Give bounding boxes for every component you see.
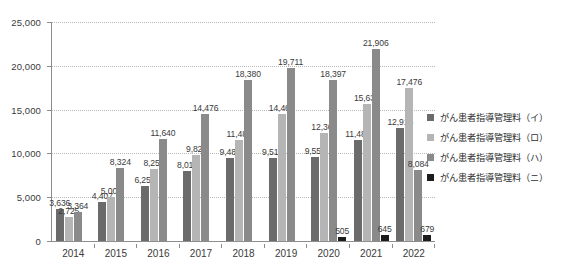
x-axis: 201420152016201720182019202020212022 <box>52 244 435 264</box>
bar-value-label: 505 <box>335 226 349 236</box>
bar[interactable]: 645 <box>381 235 389 241</box>
bar[interactable]: 4,407 <box>98 202 106 241</box>
x-tick-label: 2018 <box>222 244 265 264</box>
bar-value-label: 18,397 <box>320 69 346 79</box>
legend-label: がん患者指導管理料（イ） <box>440 110 548 124</box>
x-tick-label: 2014 <box>52 244 95 264</box>
bar[interactable]: 2,725 <box>65 217 73 241</box>
bar-group: 9,51614,46119,711 <box>265 22 308 241</box>
legend-swatch-icon <box>427 174 434 181</box>
bar-value-label: 21,906 <box>363 38 389 48</box>
x-tick-label: 2015 <box>95 244 138 264</box>
bar[interactable]: 9,480 <box>226 158 234 241</box>
x-tick-mark <box>434 244 435 248</box>
bar-value-label: 17,476 <box>396 77 422 87</box>
bar-value-label: 3,364 <box>67 201 88 211</box>
x-tick-label: 2021 <box>350 244 393 264</box>
y-axis: 05,00010,00015,00020,00025,000 <box>0 0 46 275</box>
legend-item[interactable]: がん患者指導管理料（ハ） <box>427 147 563 167</box>
bar[interactable]: 8,259 <box>150 169 158 241</box>
bar[interactable]: 505 <box>338 237 346 241</box>
x-tick-label: 2019 <box>265 244 308 264</box>
bar[interactable]: 12,916 <box>396 128 404 241</box>
bar-group: 8,0109,82414,476 <box>180 22 223 241</box>
legend-swatch-icon <box>427 134 434 141</box>
y-tick-label: 20,000 <box>11 60 41 71</box>
bar[interactable]: 12,366 <box>320 133 328 241</box>
x-tick-label: 2020 <box>307 244 350 264</box>
bar-group: 9,48011,48218,380 <box>222 22 265 241</box>
bar-value-label: 14,476 <box>193 103 219 113</box>
bar-value-label: 18,380 <box>235 69 261 79</box>
y-tick-label: 0 <box>36 236 41 247</box>
bar[interactable]: 18,397 <box>329 80 337 241</box>
bar[interactable]: 9,559 <box>311 157 319 241</box>
bar-group: 6,2508,25911,640 <box>137 22 180 241</box>
bar-chart: 05,00010,00015,00020,00025,000 3,6362,72… <box>0 0 563 275</box>
y-tick-label: 25,000 <box>11 17 41 28</box>
bar[interactable]: 9,824 <box>192 155 200 241</box>
y-tick-label: 15,000 <box>11 104 41 115</box>
bar[interactable]: 18,380 <box>244 80 252 241</box>
bar[interactable]: 9,516 <box>269 158 277 241</box>
legend-swatch-icon <box>427 114 434 121</box>
bar-value-label: 645 <box>378 224 392 234</box>
bar[interactable]: 11,482 <box>235 140 243 241</box>
legend-swatch-icon <box>427 154 434 161</box>
legend-label: がん患者指導管理料（ニ） <box>440 170 548 184</box>
legend-item[interactable]: がん患者指導管理料（イ） <box>427 107 563 127</box>
bar[interactable]: 11,640 <box>159 139 167 241</box>
x-tick-label: 2017 <box>180 244 223 264</box>
bar-value-label: 679 <box>420 224 434 234</box>
bar-group: 3,6362,7253,364 <box>52 22 95 241</box>
bar-value-label: 19,711 <box>278 57 303 67</box>
legend-item[interactable]: がん患者指導管理料（ニ） <box>427 167 563 187</box>
bar[interactable]: 15,630 <box>363 104 371 241</box>
bar[interactable]: 14,461 <box>278 114 286 241</box>
bar[interactable]: 14,476 <box>201 114 209 241</box>
legend-item[interactable]: がん患者指導管理料（ロ） <box>427 127 563 147</box>
x-axis-line <box>51 241 435 242</box>
y-tick-label: 5,000 <box>17 192 41 203</box>
bar-value-label: 8,084 <box>408 159 429 169</box>
legend-label: がん患者指導管理料（ハ） <box>440 150 548 164</box>
legend-label: がん患者指導管理料（ロ） <box>440 130 548 144</box>
x-tick-label: 2022 <box>393 244 436 264</box>
bar-value-label: 11,640 <box>150 128 175 138</box>
bar-groups: 3,6362,7253,3644,4075,0078,3246,2508,259… <box>52 22 435 241</box>
x-tick-label: 2016 <box>137 244 180 264</box>
bar-group: 4,4075,0078,324 <box>95 22 138 241</box>
bar[interactable]: 8,324 <box>116 168 124 241</box>
bar[interactable]: 19,711 <box>287 68 295 241</box>
plot-area: 3,6362,7253,3644,4075,0078,3246,2508,259… <box>52 22 435 241</box>
bar-group: 9,55912,36618,397505 <box>307 22 350 241</box>
bar[interactable]: 8,010 <box>183 171 191 241</box>
bar[interactable]: 679 <box>423 235 431 241</box>
bar[interactable]: 11,483 <box>354 140 362 241</box>
bar-group: 11,48315,63021,906645 <box>350 22 393 241</box>
y-tick-label: 10,000 <box>11 148 41 159</box>
bar[interactable]: 5,007 <box>107 197 115 241</box>
bar[interactable]: 6,250 <box>141 186 149 241</box>
chart-legend: がん患者指導管理料（イ）がん患者指導管理料（ロ）がん患者指導管理料（ハ）がん患者… <box>427 107 563 187</box>
bar-value-label: 8,324 <box>110 157 131 167</box>
bar[interactable]: 3,364 <box>74 212 82 241</box>
bar[interactable]: 21,906 <box>372 49 380 241</box>
